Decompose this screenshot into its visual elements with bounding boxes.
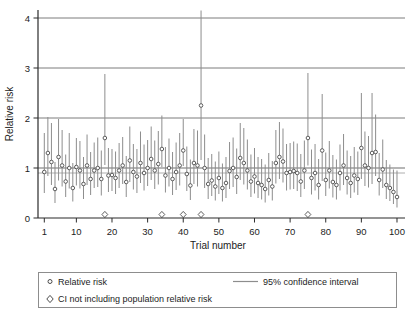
- relative-risk-marker: [67, 166, 71, 170]
- x-tick-label: 90: [356, 226, 367, 237]
- relative-risk-marker: [114, 176, 118, 180]
- relative-risk-marker: [139, 161, 143, 165]
- diamond-marker: [180, 211, 186, 217]
- relative-risk-marker: [352, 174, 356, 178]
- chart-svg: 1102030405060708090100 01234 Relative ri…: [0, 0, 411, 314]
- relative-risk-marker: [392, 190, 396, 194]
- relative-risk-marker: [331, 180, 335, 184]
- relative-risk-marker: [235, 175, 239, 179]
- relative-risk-marker: [214, 185, 218, 189]
- relative-risk-marker: [78, 169, 82, 173]
- relative-risk-marker: [374, 150, 378, 154]
- diamond-marker: [159, 211, 165, 217]
- relative-risk-marker: [128, 159, 132, 163]
- relative-risk-marker: [385, 183, 389, 187]
- y-tick-label: 3: [25, 63, 30, 74]
- relative-risk-marker: [92, 169, 96, 173]
- relative-risk-marker: [345, 176, 349, 180]
- y-tick-label: 4: [25, 13, 30, 24]
- x-tick-label: 30: [142, 226, 153, 237]
- forest-plot-figure: 1102030405060708090100 01234 Relative ri…: [0, 0, 411, 314]
- relative-risk-marker: [53, 187, 57, 191]
- relative-risk-marker: [221, 186, 225, 190]
- relative-risk-marker: [149, 157, 153, 161]
- relative-risk-marker: [192, 161, 196, 165]
- relative-risk-marker: [178, 164, 182, 168]
- legend: Relative risk 95% confidence interval CI…: [39, 273, 397, 308]
- relative-risk-marker: [85, 164, 89, 168]
- diamond-marker: [102, 211, 108, 217]
- relative-risk-marker: [395, 195, 399, 199]
- relative-risk-marker: [64, 180, 68, 184]
- x-tick-label: 60: [249, 226, 260, 237]
- y-axis-title: Relative risk: [4, 86, 15, 141]
- relative-risk-marker: [246, 169, 250, 173]
- y-tick-labels: 01234: [25, 13, 38, 224]
- relative-risk-marker: [370, 151, 374, 155]
- relative-risk-marker: [349, 181, 353, 185]
- x-tick-label: 80: [320, 226, 331, 237]
- relative-risk-marker: [100, 177, 104, 181]
- relative-risk-marker: [267, 178, 271, 182]
- relative-risk-marker: [320, 149, 324, 153]
- relative-risk-marker: [299, 180, 303, 184]
- legend-diamond-label: CI not including population relative ris…: [58, 294, 213, 304]
- relative-risk-marker: [153, 169, 157, 173]
- relative-risk-marker: [210, 179, 214, 183]
- y-tick-label: 2: [25, 113, 30, 124]
- relative-risk-marker: [110, 173, 114, 177]
- relative-risk-marker: [278, 155, 282, 159]
- y-gridlines: [38, 18, 405, 168]
- relative-risk-marker: [107, 174, 111, 178]
- relative-risk-marker: [271, 185, 275, 189]
- relative-risk-marker: [206, 182, 210, 186]
- relative-risk-marker: [199, 104, 203, 108]
- relative-risk-legend-icon: [48, 280, 52, 284]
- relative-risk-marker: [82, 182, 86, 186]
- relative-risk-marker: [75, 165, 79, 169]
- relative-risk-marker: [260, 183, 264, 187]
- relative-risk-marker: [253, 175, 257, 179]
- relative-risk-marker: [89, 177, 93, 181]
- relative-risk-marker: [281, 160, 285, 164]
- x-tick-label: 100: [389, 226, 405, 237]
- relative-risk-marker: [46, 151, 50, 155]
- relative-risk-marker: [363, 164, 367, 168]
- relative-risk-marker: [356, 177, 360, 181]
- relative-risk-marker: [124, 180, 128, 184]
- relative-risk-marker: [285, 171, 289, 175]
- relative-risk-marker: [263, 187, 267, 191]
- x-tick-label: 70: [285, 226, 296, 237]
- diamond-marker: [198, 211, 204, 217]
- relative-risk-marker: [96, 166, 100, 170]
- x-tick-label: 20: [107, 226, 118, 237]
- relative-risk-marker: [164, 174, 168, 178]
- relative-risk-marker: [224, 181, 228, 185]
- relative-risk-marker: [132, 170, 136, 174]
- diamond-markers: [102, 211, 311, 217]
- relative-risk-marker: [292, 169, 296, 173]
- relative-risk-marker: [249, 180, 253, 184]
- relative-risk-marker: [360, 146, 364, 150]
- x-tick-label: 10: [71, 226, 82, 237]
- relative-risk-marker: [121, 164, 125, 168]
- relative-risk-marker: [377, 178, 381, 182]
- x-axis-title: Trial number: [190, 240, 246, 251]
- relative-risk-marker: [317, 183, 321, 187]
- relative-risk-marker: [57, 155, 61, 159]
- relative-risk-marker: [328, 169, 332, 173]
- relative-risk-marker: [167, 166, 171, 170]
- relative-risk-marker: [313, 171, 317, 175]
- relative-risk-marker: [324, 178, 328, 182]
- relative-risk-marker: [367, 166, 371, 170]
- x-tick-label: 40: [178, 226, 189, 237]
- legend-ci-label: 95% confidence interval: [263, 277, 359, 287]
- y-tick-label: 1: [25, 163, 30, 174]
- y-tick-label: 0: [25, 213, 30, 224]
- relative-risk-marker: [288, 170, 292, 174]
- relative-risk-marker: [43, 170, 47, 174]
- relative-risk-marker: [157, 162, 161, 166]
- relative-risk-marker: [306, 136, 310, 140]
- x-tick-labels: 1102030405060708090100: [42, 218, 405, 237]
- x-tick-label: 1: [42, 226, 47, 237]
